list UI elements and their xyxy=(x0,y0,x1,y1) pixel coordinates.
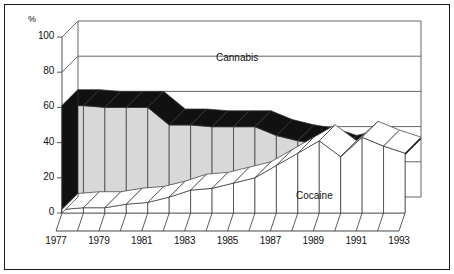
chart-plot-area xyxy=(0,0,454,274)
x-tick-label: 1981 xyxy=(122,235,162,246)
series-label-cocaine: Cocaine xyxy=(296,190,333,201)
y-axis-unit-label: % xyxy=(28,14,36,24)
y-tick-label: 40 xyxy=(24,136,54,147)
x-tick-label: 1989 xyxy=(293,235,333,246)
y-tick-label: 0 xyxy=(24,206,54,217)
series-label-cannabis: Cannabis xyxy=(216,52,258,63)
x-tick-label: 1977 xyxy=(36,235,76,246)
x-axis-ticks-group xyxy=(56,213,405,231)
x-tick-label: 1993 xyxy=(379,235,419,246)
x-tick-label: 1991 xyxy=(336,235,376,246)
y-tick-label: 20 xyxy=(24,171,54,182)
chart-figure: % 020406080100 1977197919811983198519871… xyxy=(0,0,454,274)
y-tick-label: 80 xyxy=(24,65,54,76)
y-tick-label: 60 xyxy=(24,100,54,111)
x-tick-label: 1983 xyxy=(165,235,205,246)
x-tick-label: 1979 xyxy=(79,235,119,246)
x-tick-label: 1985 xyxy=(208,235,248,246)
x-tick-label: 1987 xyxy=(250,235,290,246)
data-ribbons-group xyxy=(62,90,421,213)
y-tick-label: 100 xyxy=(24,30,54,41)
